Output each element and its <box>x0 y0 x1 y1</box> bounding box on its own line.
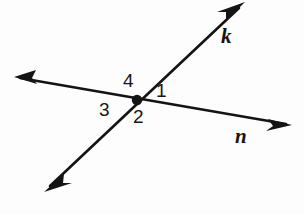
angle-label-4: 4 <box>123 71 134 90</box>
intersection-point-dot <box>132 95 142 105</box>
diagram-canvas <box>0 0 304 214</box>
line-k-segment <box>50 8 239 186</box>
line-n-right-arrowhead <box>266 119 292 131</box>
line-k-group <box>44 2 245 192</box>
angle-label-2: 2 <box>133 107 144 126</box>
angle-label-1: 1 <box>156 81 167 100</box>
line-n-group <box>14 70 292 131</box>
line-n-left-arrowhead <box>14 70 37 84</box>
angle-label-3: 3 <box>99 100 110 119</box>
line-label-n: n <box>235 126 247 147</box>
line-k-upper-arrowhead <box>217 2 245 21</box>
line-label-k: k <box>221 26 232 47</box>
angle-diagram-figure: 4 1 3 2 k n <box>0 0 304 214</box>
line-n-segment <box>20 78 286 124</box>
